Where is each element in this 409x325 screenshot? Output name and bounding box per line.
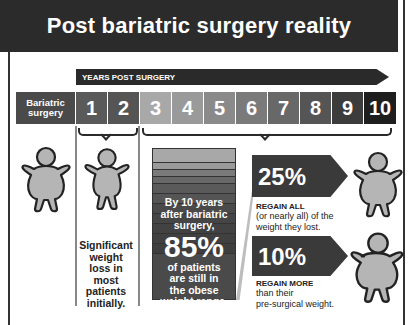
person-figure-icon bbox=[20, 145, 72, 213]
connector-wedge bbox=[236, 176, 254, 300]
stat-heading-regain-all: REGAIN ALL bbox=[256, 202, 305, 211]
year-6: 6 bbox=[236, 92, 268, 124]
year-9: 9 bbox=[332, 92, 364, 124]
year-5: 5 bbox=[204, 92, 236, 124]
years-post-surgery-arrow: YEARS POST SURGERY bbox=[76, 69, 389, 85]
stat-body-line: weight they lost. bbox=[256, 222, 334, 233]
stat-body-line: than their bbox=[256, 288, 334, 299]
year-2: 2 bbox=[108, 92, 140, 124]
band bbox=[153, 149, 235, 163]
page-title: Post bariatric surgery reality bbox=[0, 0, 398, 52]
person-figure-icon bbox=[350, 230, 406, 304]
early-weight-loss-caption: Significant weight loss in most patients… bbox=[78, 240, 134, 309]
year-7: 7 bbox=[268, 92, 300, 124]
year-10: 10 bbox=[364, 92, 396, 124]
band bbox=[153, 170, 235, 177]
start-label-line2: surgery bbox=[28, 108, 63, 118]
stack-text: By 10 years after bariatric surgery, 85%… bbox=[153, 197, 235, 308]
year-1: 1 bbox=[76, 92, 108, 124]
stack-line5: are still in bbox=[153, 273, 235, 285]
divider-line bbox=[75, 126, 77, 306]
stat-heading-regain-more: REGAIN MORE bbox=[256, 279, 313, 288]
stack-line7: weight range. bbox=[153, 296, 235, 308]
band bbox=[153, 163, 235, 170]
stat-percent-25: 25% bbox=[258, 165, 306, 189]
year-4: 4 bbox=[172, 92, 204, 124]
timeline: Bariatric surgery 1 2 3 4 5 6 7 8 9 10 bbox=[16, 92, 396, 124]
stat-body-regain-more: than their pre-surgical weight. bbox=[256, 288, 334, 309]
timeline-start-label: Bariatric surgery bbox=[16, 92, 76, 124]
person-figure-icon bbox=[352, 148, 404, 220]
person-figure-icon bbox=[82, 145, 132, 213]
band bbox=[153, 177, 235, 184]
stack-percent: 85% bbox=[153, 232, 235, 262]
band bbox=[153, 184, 235, 194]
year-8: 8 bbox=[300, 92, 332, 124]
stat-body-line: (or nearly all) of the bbox=[256, 211, 334, 222]
stat-percent-10: 10% bbox=[258, 245, 306, 269]
year-3: 3 bbox=[140, 92, 172, 124]
stat-body-regain-all: (or nearly all) of the weight they lost. bbox=[256, 211, 334, 232]
frame-border-left bbox=[8, 52, 10, 325]
divider-line bbox=[138, 126, 140, 306]
stat-body-line: pre-surgical weight. bbox=[256, 299, 334, 310]
stack-line1: By 10 years bbox=[153, 197, 235, 209]
stacked-bar-85-percent: By 10 years after bariatric surgery, 85%… bbox=[152, 148, 236, 300]
